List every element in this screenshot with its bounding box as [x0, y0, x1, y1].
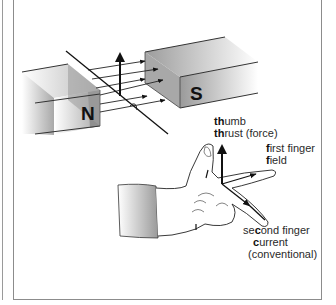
thrust-label: thrust (force) [214, 127, 278, 139]
conventional-label: (conventional) [248, 248, 317, 260]
first-finger-label: first finger [266, 142, 315, 154]
north-pole-label: N [81, 103, 95, 124]
second-finger-label: second finger [243, 224, 310, 236]
field-label: field [266, 154, 287, 166]
current-direction-mark [130, 104, 137, 110]
north-magnet [22, 64, 100, 135]
current-label: current [253, 236, 288, 248]
thumb-label: thumb [214, 115, 246, 127]
south-pole-label: S [190, 83, 203, 104]
